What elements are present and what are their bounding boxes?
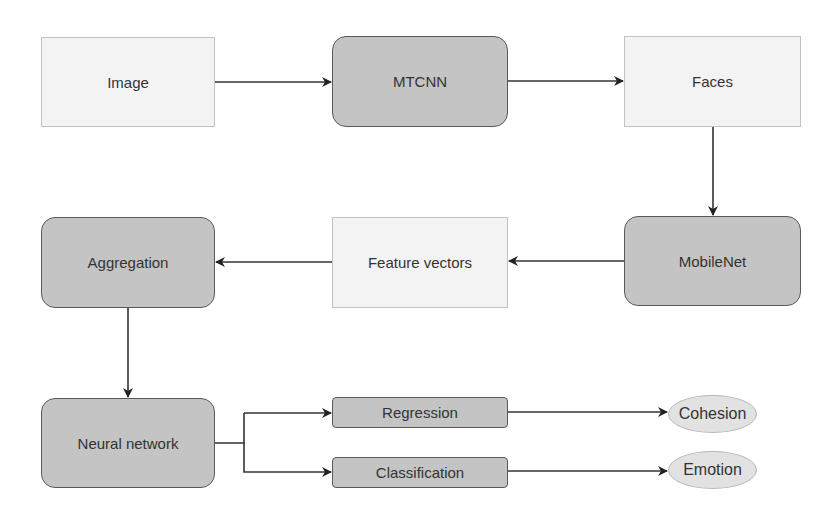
node-aggregation-label: Aggregation (88, 254, 169, 271)
node-classification-label: Classification (376, 464, 464, 481)
node-classification: Classification (332, 457, 508, 488)
node-regression: Regression (332, 397, 508, 428)
node-aggregation: Aggregation (41, 217, 215, 308)
node-emotion: Emotion (668, 451, 757, 489)
node-feature-vectors: Feature vectors (332, 217, 508, 308)
node-emotion-label: Emotion (683, 461, 742, 479)
node-regression-label: Regression (382, 404, 458, 421)
node-faces-label: Faces (692, 73, 733, 90)
node-cohesion: Cohesion (668, 395, 757, 433)
node-neural-network: Neural network (41, 398, 215, 488)
arrow-nn-branch (215, 413, 244, 443)
node-faces: Faces (624, 36, 801, 127)
node-feature-vectors-label: Feature vectors (368, 254, 472, 271)
node-mtcnn: MTCNN (332, 36, 508, 127)
node-mobilenet: MobileNet (624, 216, 801, 306)
node-mtcnn-label: MTCNN (393, 73, 447, 90)
arrow-nn-classification (244, 443, 331, 472)
node-image-label: Image (107, 74, 149, 91)
node-mobilenet-label: MobileNet (679, 253, 747, 270)
node-neural-network-label: Neural network (78, 435, 179, 452)
node-image: Image (41, 37, 215, 127)
node-cohesion-label: Cohesion (679, 405, 747, 423)
